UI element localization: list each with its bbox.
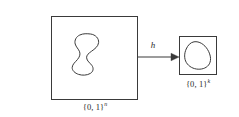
egg-blob-shape (185, 42, 211, 70)
codomain-set-label: {0, 1}k (173, 78, 223, 88)
domain-box (52, 17, 138, 100)
irregular-blob-shape (72, 34, 98, 75)
codomain-set-exponent: k (207, 78, 210, 84)
domain-set-label: {0, 1}n (70, 101, 120, 111)
codomain-set-base: {0, 1} (186, 79, 208, 89)
map-arrow-label: h (146, 41, 160, 50)
function-mapping-figure: h {0, 1}n {0, 1}k (0, 0, 239, 117)
figure-canvas (0, 0, 239, 117)
domain-set-exponent: n (104, 101, 107, 107)
domain-set-base: {0, 1} (83, 102, 105, 112)
map-arrow-head (171, 53, 179, 61)
